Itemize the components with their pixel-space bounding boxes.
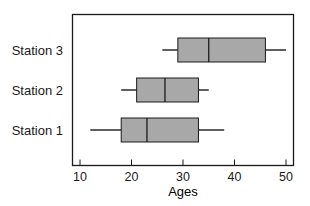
x-tick-label: 20 — [125, 170, 139, 184]
y-axis-labels: Station 1Station 2Station 3 — [12, 43, 63, 138]
iqr-box — [178, 38, 266, 62]
x-tick-label: 50 — [279, 170, 293, 184]
box-plot-chart: Station 1Station 2Station 3 1020304050 A… — [0, 0, 310, 206]
box-station-2 — [121, 78, 209, 102]
x-tick-label: 30 — [176, 170, 190, 184]
iqr-box — [121, 118, 198, 142]
box-station-1 — [90, 118, 224, 142]
box-station-3 — [162, 38, 286, 62]
box-series — [90, 38, 286, 142]
x-axis-title: Ages — [168, 184, 198, 199]
x-tick-label: 40 — [228, 170, 242, 184]
x-tick-label: 10 — [73, 170, 87, 184]
y-tick-label: Station 3 — [12, 43, 63, 58]
iqr-box — [137, 78, 199, 102]
y-tick-label: Station 1 — [12, 123, 63, 138]
y-tick-label: Station 2 — [12, 83, 63, 98]
x-axis: 1020304050 — [73, 160, 293, 185]
chart-canvas: Station 1Station 2Station 3 1020304050 A… — [0, 0, 310, 206]
